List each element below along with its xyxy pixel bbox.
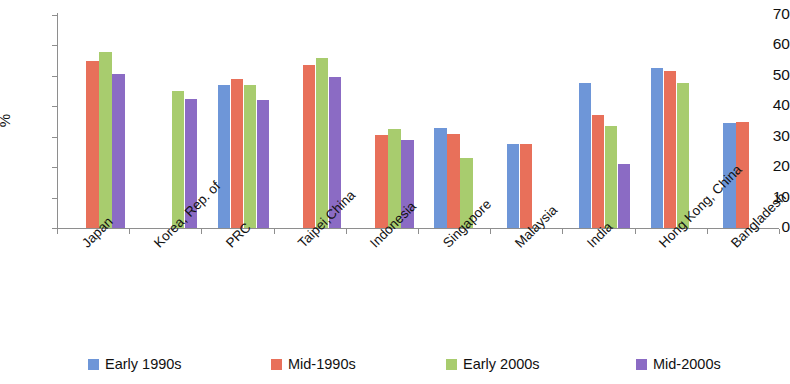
- bar: [520, 144, 533, 228]
- legend-label: Mid-1990s: [288, 356, 356, 372]
- bar: [618, 164, 631, 228]
- bar: [316, 58, 329, 228]
- bar: [605, 126, 618, 228]
- bar: [664, 71, 677, 228]
- x-axis-tick-mark: [562, 229, 563, 234]
- x-axis-tick-mark: [129, 229, 130, 234]
- bar: [244, 85, 257, 228]
- bar: [99, 52, 112, 228]
- x-axis-tick-mark: [635, 229, 636, 234]
- x-axis-tick-mark: [201, 229, 202, 234]
- bar: [579, 83, 592, 228]
- bar: [375, 135, 388, 228]
- bar: [231, 79, 244, 228]
- bar-chart: % 706050403020100 JapanKorea, Rep. ofPRC…: [0, 0, 790, 384]
- x-axis-tick-mark: [490, 229, 491, 234]
- bar: [677, 83, 690, 228]
- legend-color-swatch: [271, 359, 282, 370]
- bar: [447, 134, 460, 228]
- bar: [507, 144, 520, 228]
- bar: [651, 68, 664, 228]
- legend-label: Early 2000s: [463, 356, 540, 372]
- plot-bars-area: [57, 10, 779, 228]
- legend-label: Early 1990s: [105, 356, 182, 372]
- legend-item[interactable]: Early 2000s: [446, 356, 540, 372]
- bar: [218, 85, 231, 228]
- legend-color-swatch: [636, 359, 647, 370]
- bar: [257, 100, 270, 228]
- x-axis-tick-mark: [707, 229, 708, 234]
- legend-item[interactable]: Mid-2000s: [636, 356, 721, 372]
- legend-label: Mid-2000s: [653, 356, 721, 372]
- legend-color-swatch: [446, 359, 457, 370]
- legend-item[interactable]: Mid-1990s: [271, 356, 356, 372]
- x-axis-tick-mark: [57, 229, 58, 234]
- x-axis-tick-mark: [418, 229, 419, 234]
- legend-item[interactable]: Early 1990s: [88, 356, 182, 372]
- y-axis-title: %: [0, 114, 13, 127]
- x-axis-tick-mark: [779, 229, 780, 234]
- x-axis-tick-mark: [274, 229, 275, 234]
- bar: [303, 65, 316, 228]
- chart-legend: Early 1990sMid-1990sEarly 2000sMid-2000s: [0, 356, 790, 380]
- bar: [86, 61, 99, 228]
- legend-color-swatch: [88, 359, 99, 370]
- bar: [112, 74, 125, 228]
- bar: [592, 115, 605, 228]
- x-axis-tick-mark: [346, 229, 347, 234]
- bar: [434, 128, 447, 228]
